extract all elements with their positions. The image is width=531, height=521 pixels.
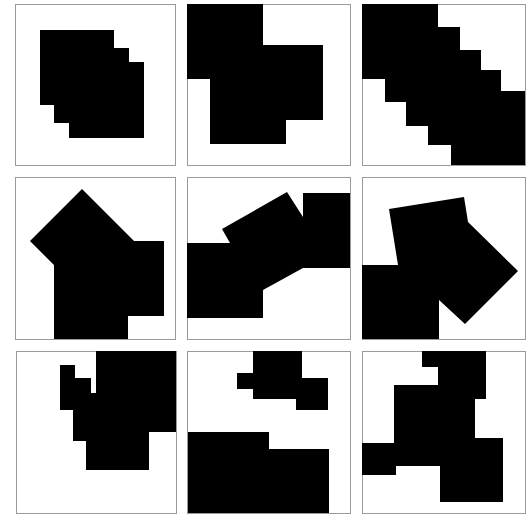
grid-cell-6	[362, 178, 526, 340]
grid-cell-3	[362, 4, 526, 166]
grid-cell-4	[16, 178, 176, 340]
grid-cell-2	[187, 4, 351, 166]
grid-cell-9	[362, 351, 526, 514]
grid-cell-8	[188, 351, 351, 514]
grid-cell-5	[187, 178, 351, 340]
grid-cell-1	[16, 5, 176, 166]
grid-cell-7	[17, 351, 177, 514]
shape-grid	[0, 0, 531, 521]
